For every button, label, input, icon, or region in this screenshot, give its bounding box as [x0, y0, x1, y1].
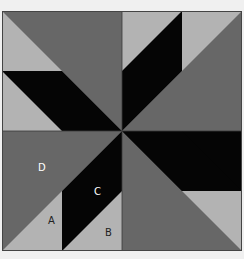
label-a: A	[48, 215, 55, 226]
label-b: B	[105, 227, 112, 238]
quilt-block-diagram: D C A B	[2, 11, 242, 251]
label-c: C	[94, 186, 101, 197]
label-d: D	[38, 162, 46, 173]
